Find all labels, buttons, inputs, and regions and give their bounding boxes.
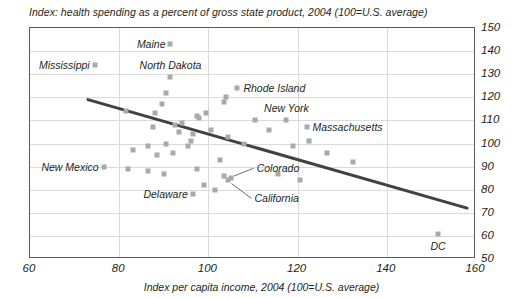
point-label-rhode-island: Rhode Island [243,82,305,94]
x-tick-label: 120 [287,262,306,274]
point-label-mississippi: Mississippi [39,59,90,71]
point-label-new-york: New York [264,102,309,114]
y-tick-label: 60 [481,229,494,241]
x-tick-label: 60 [23,262,36,274]
y-tick-label: 140 [481,44,500,56]
x-tick-label: 100 [198,262,217,274]
point-annotations-layer: MaineMississippiNorth DakotaRhode Island… [30,28,474,257]
y-tick-label: 100 [481,137,500,149]
chart-title: Index: health spending as a percent of g… [29,6,427,18]
y-tick-label: 150 [481,21,500,33]
point-label-massachusetts: Massachusetts [313,121,383,133]
x-tick-label: 160 [465,262,484,274]
x-tick-label: 140 [376,262,395,274]
leader-lines [30,28,474,257]
x-axis-title: Index per capita income, 2004 (100=U.S. … [0,281,523,293]
y-tick-label: 130 [481,67,500,79]
y-tick-label: 70 [481,206,494,218]
point-label-dc: DC [430,240,445,252]
y-tick-label: 120 [481,90,500,102]
point-label-north-dakota: North Dakota [140,59,202,71]
x-tick-label: 80 [112,262,125,274]
point-label-delaware: Delaware [143,188,187,200]
point-label-colorado: Colorado [257,162,300,174]
y-tick-label: 90 [481,160,494,172]
x-axis: 6080100120140160 [29,262,475,280]
plot-area: MaineMississippiNorth DakotaRhode Island… [29,27,475,258]
point-label-california: California [254,192,298,204]
point-label-maine: Maine [137,38,166,50]
y-tick-label: 110 [481,113,499,125]
y-tick-label: 80 [481,183,494,195]
y-axis: 5060708090100110120130140150 [481,27,521,258]
point-label-new-mexico: New Mexico [41,161,98,173]
